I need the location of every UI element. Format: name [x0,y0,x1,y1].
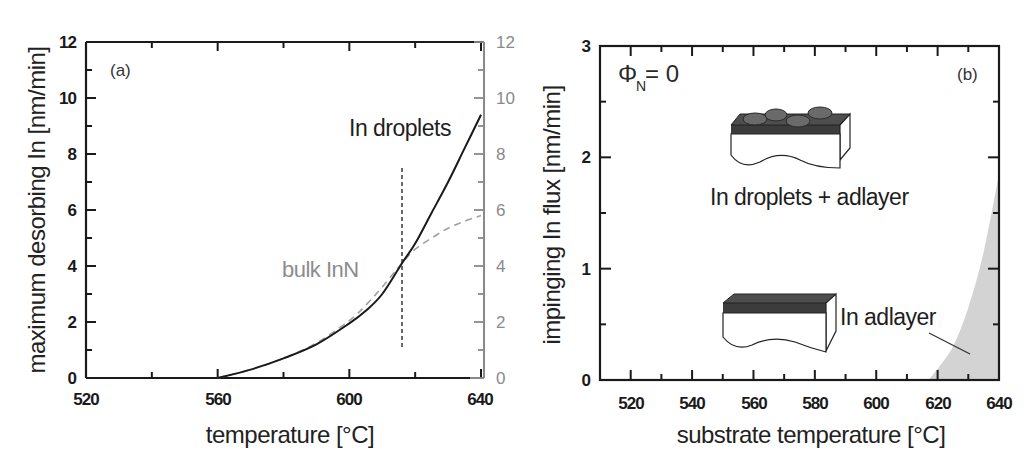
adlayer-schematic-icon [723,294,836,352]
y-tick-label: 1 [582,260,591,279]
x-tick-label: 540 [679,394,705,413]
panel-a: 0 2 4 6 8 10 12 0 2 4 6 8 10 12 520 560 … [23,33,515,448]
panel-a-ticks [86,42,484,378]
x-tick-label: 640 [467,390,493,409]
y2-tick-label: 12 [496,33,515,52]
in-droplets-curve [218,115,481,378]
panel-b-x-tick-labels: 520 540 560 580 600 620 640 [618,394,1012,413]
label-in-droplets-adlayer: In droplets + adlayer [710,184,909,210]
y-tick-label: 2 [68,313,77,332]
droplets-adlayer-schematic-icon [731,107,850,168]
panel-b-tag: (b) [957,65,978,84]
y2-tick-label: 8 [496,145,505,164]
bulk-inn-curve [218,216,481,378]
y-tick-label: 4 [68,257,78,276]
panel-b: 0 1 2 3 520 540 560 580 600 620 640 subs… [538,37,1012,448]
panel-a-x-axis-label: temperature [°C] [206,421,374,448]
x-tick-label: 560 [205,390,231,409]
figure: 0 2 4 6 8 10 12 0 2 4 6 8 10 12 520 560 … [0,0,1034,472]
y2-tick-label: 6 [496,201,505,220]
panel-a-y-tick-labels: 0 2 4 6 8 10 12 [59,33,77,388]
phi-n-label: Φ N = 0 [618,60,679,94]
phi-value: = 0 [645,60,679,87]
in-adlayer-shaded-region [928,174,999,380]
y-tick-label: 10 [59,89,76,108]
y-tick-label: 6 [68,201,77,220]
label-in-adlayer: In adlayer [840,304,937,330]
label-bulk-inn: bulk InN [282,257,359,282]
y-tick-label: 8 [68,145,77,164]
panel-a-x-tick-labels: 520 560 600 640 [73,390,493,409]
x-tick-label: 560 [741,394,767,413]
x-tick-label: 640 [986,394,1012,413]
x-tick-label: 580 [802,394,828,413]
x-tick-label: 600 [336,390,362,409]
x-tick-label: 600 [863,394,889,413]
y2-tick-label: 2 [496,313,505,332]
y2-tick-label: 4 [496,257,505,276]
panel-b-y-axis-label: impinging In flux [nm/min] [538,85,565,344]
panel-b-x-axis-label: substrate temperature [°C] [677,421,946,448]
phi-symbol: Φ [618,60,637,87]
label-in-droplets: In droplets [349,115,451,141]
panel-a-tag: (a) [110,61,131,80]
y-tick-label: 2 [582,148,591,167]
x-tick-label: 620 [925,394,951,413]
panel-a-y-axis-label: maximum desorbing In [nm/min] [23,47,50,374]
y-tick-label: 12 [59,33,76,52]
y2-tick-label: 0 [496,369,505,388]
y-tick-label: 3 [582,37,591,56]
panel-b-y-tick-labels: 0 1 2 3 [582,37,591,390]
y-tick-label: 0 [582,371,591,390]
y-tick-label: 0 [68,369,77,388]
panel-a-y2-tick-labels: 0 2 4 6 8 10 12 [496,33,515,388]
y2-tick-label: 10 [496,89,515,108]
x-tick-label: 520 [618,394,644,413]
x-tick-label: 520 [73,390,99,409]
